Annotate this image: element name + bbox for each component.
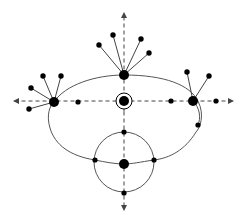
right-outer-node [213,98,218,103]
circle-top-node [121,129,126,134]
circle-bottom-node [121,190,126,195]
nodes [26,32,218,195]
circle-right-node [151,157,156,162]
spoke-edge [124,39,141,75]
left-hub [49,97,59,107]
leaf-node [184,69,189,74]
right-inner-node [168,98,173,103]
top-hub [119,70,129,80]
leaf-node [206,73,211,78]
leaf-node [40,73,45,78]
circle-left-node [92,157,97,162]
leaf-node [146,50,151,55]
outer-loop-curve [48,75,201,164]
leaf-node [26,106,31,111]
right-hub [188,96,198,106]
diagram-canvas [0,0,243,222]
leaf-node [58,73,63,78]
right-lower-node [195,122,200,127]
axes [14,13,233,210]
leaf-node [138,36,143,41]
leaf-node [96,42,101,47]
left-axis-node [75,99,80,104]
bottom-hub [119,159,129,169]
leaf-node [110,32,115,37]
leaf-node [28,85,33,90]
center-node [119,96,129,106]
